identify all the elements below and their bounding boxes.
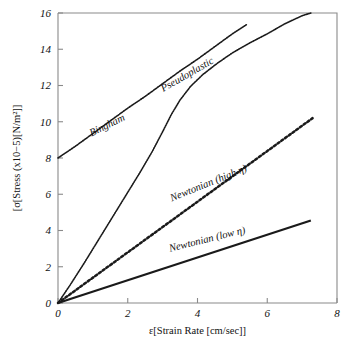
series-bingham	[58, 25, 246, 158]
y-tick-label: 16	[40, 7, 52, 19]
y-tick-label: 8	[46, 152, 52, 164]
y-tick-label: 0	[46, 297, 52, 309]
x-axis-title: ε[Strain Rate [cm/sec]]	[149, 325, 246, 336]
curve-label-bingham: Bingham	[88, 112, 127, 139]
series-pseudoplastic	[58, 13, 311, 303]
chart-tick-labels: 024681012141602468	[40, 7, 340, 319]
axis-spine-top-right	[58, 13, 337, 303]
curve-label-pseudoplastic: Pseudoplastic	[158, 55, 216, 95]
curve-label-newtonian-high: Newtonian (high η)	[168, 162, 250, 204]
chart-curve-labels: BinghamPseudoplasticNewtonian (high η)Ne…	[88, 55, 250, 255]
y-tick-label: 6	[46, 188, 52, 200]
axis-spine-left-bottom	[58, 13, 337, 303]
series-newtonian-high	[58, 118, 313, 303]
curve-label-newtonian-low: Newtonian (low η)	[167, 224, 247, 255]
x-tick-label: 0	[55, 307, 61, 319]
x-tick-label: 4	[195, 307, 201, 319]
y-tick-label: 14	[40, 43, 52, 55]
series-newtonian-low	[58, 221, 311, 303]
y-tick-label: 4	[46, 224, 52, 236]
chart-svg: 024681012141602468 BinghamPseudoplasticN…	[0, 0, 352, 351]
rheology-chart-figure: 024681012141602468 BinghamPseudoplasticN…	[0, 0, 352, 351]
y-axis-title: [σ[Stress (x10−5)[N/m²]]	[11, 105, 23, 212]
x-tick-label: 8	[334, 307, 340, 319]
chart-series	[58, 13, 313, 303]
chart-axes	[58, 13, 337, 303]
y-tick-label: 2	[46, 261, 52, 273]
x-tick-label: 2	[125, 307, 131, 319]
y-tick-label: 12	[40, 79, 52, 91]
x-tick-label: 6	[265, 307, 271, 319]
y-tick-label: 10	[40, 116, 52, 128]
